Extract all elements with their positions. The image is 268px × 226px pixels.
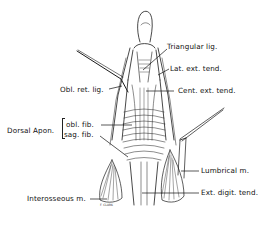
label-ext-digit-tend: Ext. digit. tend. — [201, 189, 258, 196]
label-lumbrical-m: Lumbrical m. — [201, 167, 249, 174]
label-sag-fib: sag. fib. — [64, 131, 94, 138]
label-cent-ext-tend: Cent. ext. tend. — [178, 87, 236, 94]
leader-sag-fib — [100, 136, 128, 157]
label-triangular-lig: Triangular lig. — [167, 43, 217, 50]
label-obl-fib: obl. fib. — [66, 121, 94, 128]
leader-triangular-lig — [143, 49, 167, 70]
label-dorsal-apon: Dorsal Apon. — [7, 127, 54, 134]
label-obl-ret-lig: Obl. ret. lig. — [60, 86, 104, 93]
label-interosseous-m: Interosseous m. — [27, 195, 86, 202]
label-lat-ext-tend: Lat. ext. tend. — [170, 65, 222, 72]
artist-signature: F. CLARK — [100, 203, 113, 207]
distal-phalanx — [138, 11, 153, 42]
extensor-tendon — [130, 162, 158, 205]
